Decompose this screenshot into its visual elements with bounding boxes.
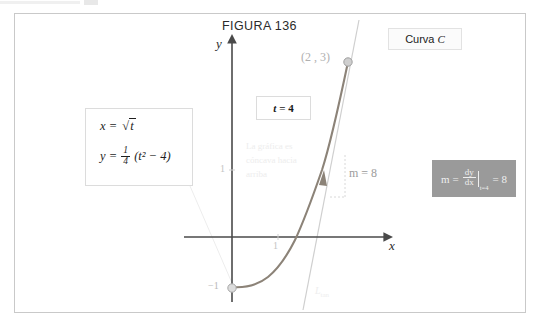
equation-x-radicand: t <box>129 118 135 134</box>
vertical-bar-glyph <box>478 171 479 187</box>
page-remnant-line <box>0 1 80 4</box>
equation-y: y = 1 4 (t² − 4) <box>100 147 192 168</box>
tick-label-y-minus-1: −1 <box>208 280 219 291</box>
equation-y-lhs: y <box>100 149 106 163</box>
figure-title: FIGURA 136 <box>222 19 297 33</box>
tangent-line-label-subscript: tan <box>321 291 330 299</box>
fraction-one-fourth: 1 4 <box>121 146 130 167</box>
concavity-note: La gráfica es cóncava hacia arriba <box>246 140 312 182</box>
tick-label-x-1: 1 <box>273 240 278 251</box>
point-coordinate-label: (2 , 3) <box>301 50 330 65</box>
tangent-line-label: Ltan <box>315 285 329 299</box>
slope-annotation: m = 8 <box>349 166 377 181</box>
equation-x-lhs: x <box>100 119 106 133</box>
derivative-formula: m = dy dx t=4 = 8 <box>441 169 507 189</box>
equation-y-expression: (t² − 4) <box>134 149 170 163</box>
curve-name-prefix: Curva <box>405 33 437 45</box>
derivative-equals-1: = <box>453 173 459 185</box>
t-value-text: t = 4 <box>273 102 293 114</box>
page-remnant-mark <box>84 0 98 5</box>
derivative-result: = 8 <box>493 173 507 185</box>
derivative-numerator: dy <box>463 168 476 177</box>
curve-name-symbol: C <box>438 33 445 45</box>
curve-name-text: Curva C <box>405 33 445 45</box>
fraction-denominator: 4 <box>121 156 130 167</box>
t-value: = 4 <box>276 102 293 114</box>
x-axis-label: x <box>389 238 395 254</box>
curve-name-box: Curva C <box>388 28 462 50</box>
derivative-result-box: m = dy dx t=4 = 8 <box>432 160 516 197</box>
tick-label-y-1: 1 <box>220 163 225 174</box>
equation-y-equals: = <box>109 149 117 163</box>
y-axis-label: y <box>216 36 222 52</box>
figure-root: FIGURA 136 y x 1 1 −1 (2 , 3) x = √t y =… <box>0 0 542 327</box>
parametric-equations-box: x = √t y = 1 4 (t² − 4) <box>85 108 193 186</box>
fraction-numerator: 1 <box>121 146 130 156</box>
derivative-m: m <box>441 173 450 185</box>
t-value-box: t = 4 <box>256 96 311 120</box>
evaluation-subscript: t=4 <box>480 184 489 191</box>
derivative-denominator: dx <box>463 177 476 187</box>
sqrt-symbol: √t <box>120 118 135 134</box>
derivative-fraction: dy dx <box>463 168 476 188</box>
evaluation-bar: t=4 <box>478 171 488 187</box>
equation-x: x = √t <box>100 118 192 134</box>
equation-x-equals: = <box>109 119 117 133</box>
